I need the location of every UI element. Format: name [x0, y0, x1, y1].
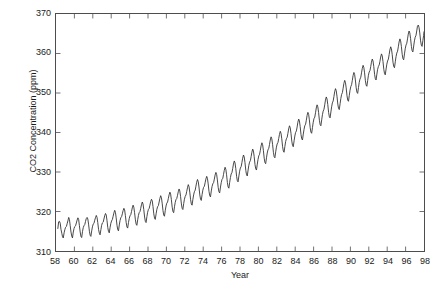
co2-data-line	[58, 25, 424, 238]
x-tick-label: 98	[410, 256, 440, 266]
y-tick-label: 330	[3, 168, 51, 177]
y-tick-label: 360	[3, 48, 51, 57]
y-axis-title: CO2 Concentration (ppm)	[28, 36, 38, 206]
co2-series-line	[56, 14, 424, 251]
x-axis-title: Year	[55, 270, 425, 280]
plot-area	[55, 13, 425, 252]
co2-concentration-chart-figure: 310320330340350360370 586062646668707274…	[0, 0, 441, 291]
y-tick-label: 350	[3, 88, 51, 97]
y-tick-label: 370	[3, 9, 51, 18]
x-axis-tick-labels: 5860626466687072747678808284868890929496…	[55, 256, 425, 270]
y-tick-label: 340	[3, 128, 51, 137]
y-tick-label: 320	[3, 208, 51, 217]
y-axis-tick-labels: 310320330340350360370	[0, 13, 51, 252]
